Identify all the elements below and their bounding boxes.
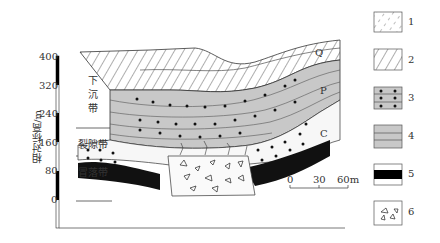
scale-60m: 60m xyxy=(337,174,359,185)
zone-subsidence-char: 带 xyxy=(88,102,98,116)
zone-fracture: 裂隙带 xyxy=(78,136,108,151)
zone-caving: 冒落带 xyxy=(78,164,108,179)
tick-400: 400 xyxy=(39,51,58,62)
tick-240: 240 xyxy=(39,108,58,119)
legend-label-5: 5 xyxy=(408,168,414,179)
caved-rock-zone xyxy=(168,156,255,196)
zone-subsidence-char: 下 xyxy=(88,74,98,88)
zone-subsidence: 下 沉 带 xyxy=(88,74,98,116)
tick-0: 0 xyxy=(51,194,57,205)
scale-bar xyxy=(290,185,348,188)
legend-label-6: 6 xyxy=(408,206,414,217)
stratum-p-label: P xyxy=(320,85,327,96)
legend-label-1: 1 xyxy=(408,16,414,27)
stratum-c-label: C xyxy=(320,128,328,139)
legend-label-2: 2 xyxy=(408,54,414,65)
stratum-q-label: Q xyxy=(315,47,323,58)
tick-160: 160 xyxy=(39,137,58,148)
scale-0: 0 xyxy=(287,174,293,185)
zone-subsidence-char: 沉 xyxy=(88,88,98,102)
legend xyxy=(374,12,402,225)
scale-30: 30 xyxy=(313,174,326,185)
legend-label-3: 3 xyxy=(408,92,414,103)
tick-320: 320 xyxy=(39,80,58,91)
geologic-section-diagram xyxy=(0,0,440,243)
tick-80: 80 xyxy=(45,165,58,176)
legend-label-4: 4 xyxy=(408,130,414,141)
